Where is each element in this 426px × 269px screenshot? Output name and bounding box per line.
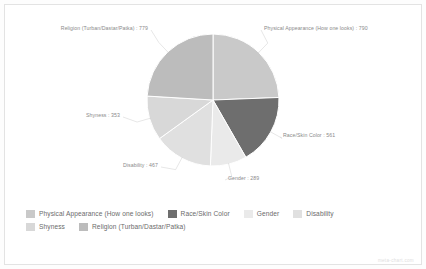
pie-slice[interactable] bbox=[147, 34, 213, 100]
legend-swatch-shyness bbox=[26, 223, 35, 231]
legend-swatch-physical-appearance bbox=[26, 210, 35, 218]
slice-label-shyness: Shyness : 353 bbox=[86, 113, 120, 118]
chart-legend: Physical Appearance (How one looks) Race… bbox=[26, 210, 406, 236]
leader-line bbox=[123, 117, 151, 122]
watermark-text: meta-chart.com bbox=[378, 258, 414, 263]
legend-swatch-religion bbox=[79, 223, 88, 231]
slice-label-race-skin-color: Race/Skin Color : 561 bbox=[283, 133, 335, 138]
legend-label-religion: Religion (Turban/Dastar/Patka) bbox=[92, 224, 186, 231]
pie-slices-group bbox=[147, 34, 279, 166]
slice-label-religion: Religion (Turban/Dastar/Patka) : 779 bbox=[61, 26, 148, 31]
slice-label-physical-appearance: Physical Appearance (How one looks) : 79… bbox=[264, 26, 368, 31]
legend-item-disability[interactable]: Disability bbox=[293, 210, 333, 218]
legend-item-gender[interactable]: Gender bbox=[244, 210, 280, 218]
legend-label-race-skin-color: Race/Skin Color bbox=[181, 211, 230, 218]
legend-swatch-gender bbox=[244, 210, 253, 218]
legend-label-shyness: Shyness bbox=[39, 224, 65, 231]
legend-row-1: Physical Appearance (How one looks) Race… bbox=[26, 210, 406, 218]
legend-row-2: Shyness Religion (Turban/Dastar/Patka) bbox=[26, 223, 406, 231]
legend-swatch-disability bbox=[293, 210, 302, 218]
leader-line bbox=[258, 30, 268, 53]
pie-slice[interactable] bbox=[213, 34, 279, 100]
leader-line bbox=[151, 30, 168, 53]
legend-label-disability: Disability bbox=[306, 211, 333, 218]
legend-item-physical-appearance[interactable]: Physical Appearance (How one looks) bbox=[26, 210, 154, 218]
leader-line bbox=[161, 157, 182, 169]
legend-label-physical-appearance: Physical Appearance (How one looks) bbox=[39, 211, 154, 218]
legend-swatch-race-skin-color bbox=[168, 210, 177, 218]
legend-item-shyness[interactable]: Shyness bbox=[26, 223, 65, 231]
leader-line bbox=[270, 131, 282, 138]
slice-label-disability: Disability : 467 bbox=[123, 163, 158, 168]
slice-label-gender: Gender : 289 bbox=[228, 176, 259, 181]
legend-item-religion[interactable]: Religion (Turban/Dastar/Patka) bbox=[79, 223, 186, 231]
legend-item-race-skin-color[interactable]: Race/Skin Color bbox=[168, 210, 230, 218]
legend-label-gender: Gender bbox=[257, 211, 280, 218]
pie-plot-area: Physical Appearance (How one looks) : 79… bbox=[0, 0, 426, 200]
chart-page: Physical Appearance (How one looks) : 79… bbox=[0, 0, 426, 269]
